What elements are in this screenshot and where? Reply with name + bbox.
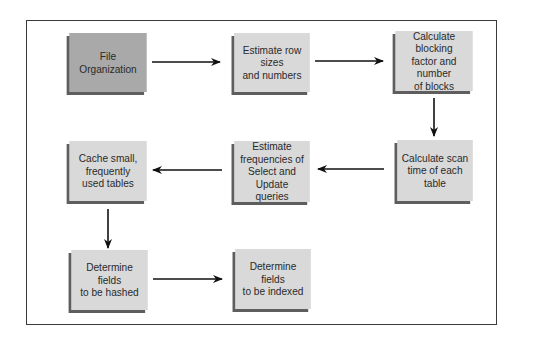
node-calculate-scan-time: Calculate scan time of each table <box>397 140 473 201</box>
node-label: Cache small, frequently used tables <box>75 152 141 190</box>
node-label: Estimate frequencies of Select and Updat… <box>234 140 310 203</box>
node-determine-hashed-fields: Determine fields to be hashed <box>71 250 148 310</box>
node-file-organization: File Organization <box>69 33 146 92</box>
node-estimate-row-sizes: Estimate row sizes and numbers <box>234 33 310 92</box>
node-label: Calculate blocking factor and number of … <box>395 30 472 93</box>
node-estimate-query-frequencies: Estimate frequencies of Select and Updat… <box>234 141 310 202</box>
node-cache-small-tables: Cache small, frequently used tables <box>69 141 146 201</box>
node-determine-indexed-fields: Determine fields to be indexed <box>235 249 311 309</box>
node-label: File Organization <box>76 50 140 75</box>
node-label: Estimate row sizes and numbers <box>234 44 310 82</box>
node-label: Determine fields to be hashed <box>71 261 148 299</box>
node-label: Determine fields to be indexed <box>235 260 311 298</box>
node-label: Calculate scan time of each table <box>398 152 471 190</box>
node-calculate-blocking-factor: Calculate blocking factor and number of … <box>395 31 472 91</box>
